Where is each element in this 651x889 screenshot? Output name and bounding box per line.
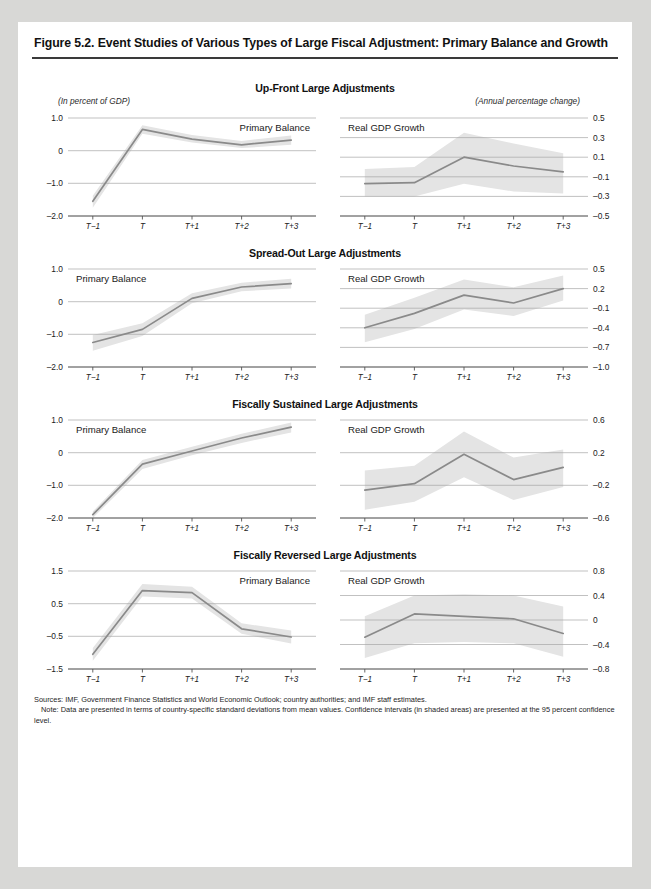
units-left-label: (In percent of GDP) [58,96,130,106]
data-line [93,590,291,654]
data-note: Note: Data are presented in terms of cou… [34,705,616,726]
x-tick-label: T+3 [284,524,299,533]
x-tick-label: T+2 [506,373,521,382]
y-tick-label: 0.8 [593,566,605,576]
x-tick-label: T−1 [86,373,100,382]
x-tick-label: T+1 [185,524,199,533]
y-tick-label: –2.0 [47,211,64,221]
y-tick-label: 0.5 [593,264,605,274]
y-tick-label: –0.4 [593,323,610,333]
x-tick-label: T [412,373,418,382]
y-tick-label: –1.0 [593,362,610,372]
chart-pair-1: 1.00–1.0–2.0T−1TT+1T+2T+3Primary Balance… [32,110,618,238]
series-label: Real GDP Growth [348,424,425,435]
x-tick-label: T [412,222,418,231]
x-tick-label: T+2 [234,373,249,382]
series-label: Primary Balance [240,122,310,133]
series-label: Real GDP Growth [348,122,425,133]
y-tick-label: –1.0 [47,329,64,339]
x-tick-label: T+2 [506,524,521,533]
y-tick-label: –0.5 [593,211,610,221]
series-label: Primary Balance [76,273,146,284]
y-tick-label: –0.1 [593,172,610,182]
units-row-1: (In percent of GDP) (Annual percentage c… [32,96,618,110]
x-tick-label: T−1 [86,222,100,231]
confidence-band [93,125,291,208]
x-tick-label: T+2 [234,524,249,533]
chart-pair-2: 1.00–1.0–2.0T−1TT+1T+2T+3Primary Balance… [32,261,618,389]
chart-spread-out-real-gdp-growth: 0.50.2–0.1–0.4–0.7–1.0T−1TT+1T+2T+3Real … [330,261,622,389]
y-tick-label: 0.2 [593,283,605,293]
y-tick-label: –0.6 [593,513,610,523]
panel-heading-2: Spread-Out Large Adjustments [32,247,618,259]
title-rule [32,57,618,59]
x-tick-label: T+1 [457,675,471,684]
x-tick-label: T−1 [358,222,372,231]
y-tick-label: 0 [58,447,63,457]
y-tick-label: –1.0 [47,178,64,188]
x-tick-label: T+1 [185,675,199,684]
confidence-band [365,431,563,509]
data-line [93,427,291,515]
charts-card: Up-Front Large Adjustments (In percent o… [32,69,618,691]
panel-heading-1: Up-Front Large Adjustments [32,82,618,94]
figure-title: Figure 5.2. Event Studies of Various Typ… [18,22,632,57]
y-tick-label: –1.5 [47,664,64,674]
panel-heading-3: Fiscally Sustained Large Adjustments [32,398,618,410]
x-tick-label: T+3 [284,222,299,231]
confidence-band [93,279,291,351]
x-tick-label: T−1 [86,675,100,684]
x-tick-label: T [412,524,418,533]
x-tick-label: T+1 [185,373,199,382]
y-tick-label: 0 [593,615,598,625]
x-tick-label: T+3 [284,675,299,684]
sources-note: Sources: IMF, Government Finance Statist… [34,695,616,706]
y-tick-label: –0.1 [593,303,610,313]
confidence-band [365,132,563,196]
y-tick-label: 0.6 [593,415,605,425]
figure-footnotes: Sources: IMF, Government Finance Statist… [34,695,616,735]
x-tick-label: T+3 [556,524,571,533]
x-tick-label: T [140,524,146,533]
series-label: Primary Balance [76,424,146,435]
y-tick-label: –0.7 [593,342,610,352]
y-tick-label: –0.8 [593,664,610,674]
x-tick-label: T−1 [358,373,372,382]
y-tick-label: 0 [58,145,63,155]
y-tick-label: –1.0 [47,480,64,490]
series-label: Real GDP Growth [348,575,425,586]
y-tick-label: –0.2 [593,480,610,490]
x-tick-label: T+2 [506,675,521,684]
x-tick-label: T+1 [457,524,471,533]
y-tick-label: 0.5 [593,113,605,123]
series-label: Real GDP Growth [348,273,425,284]
y-tick-label: –0.3 [593,191,610,201]
y-tick-label: –0.4 [593,639,610,649]
y-tick-label: 1.5 [51,566,63,576]
chart-pair-4: 1.50.5–0.5–1.5T−1TT+1T+2T+3Primary Balan… [32,563,618,691]
chart-fiscally-sustained-real-gdp-growth: 0.60.2–0.2–0.6T−1TT+1T+2T+3Real GDP Grow… [330,412,622,540]
y-tick-label: 0 [58,296,63,306]
y-tick-label: 0.2 [593,447,605,457]
x-tick-label: T+1 [457,373,471,382]
y-tick-label: 0.4 [593,590,605,600]
x-tick-label: T+3 [556,222,571,231]
x-tick-label: T+2 [234,222,249,231]
confidence-band [93,422,291,517]
confidence-band [365,275,563,342]
y-tick-label: 1.0 [51,264,63,274]
x-tick-label: T [140,373,146,382]
x-tick-label: T+3 [556,675,571,684]
chart-up-front-real-gdp-growth: 0.50.30.1–0.1–0.3–0.5T−1TT+1T+2T+3Real G… [330,110,622,238]
chart-fiscally-reversed-real-gdp-growth: 0.80.40–0.4–0.8T−1TT+1T+2T+3Real GDP Gro… [330,563,622,691]
y-tick-label: 0.5 [51,598,63,608]
confidence-band [365,594,563,658]
units-right-label: (Annual percentage change) [475,96,580,106]
chart-fiscally-reversed-primary-balance: 1.50.5–0.5–1.5T−1TT+1T+2T+3Primary Balan… [34,563,326,691]
chart-up-front-primary-balance: 1.00–1.0–2.0T−1TT+1T+2T+3Primary Balance [34,110,326,238]
x-tick-label: T [140,222,146,231]
x-tick-label: T−1 [358,524,372,533]
y-tick-label: –2.0 [47,362,64,372]
y-tick-label: –2.0 [47,513,64,523]
x-tick-label: T+3 [556,373,571,382]
